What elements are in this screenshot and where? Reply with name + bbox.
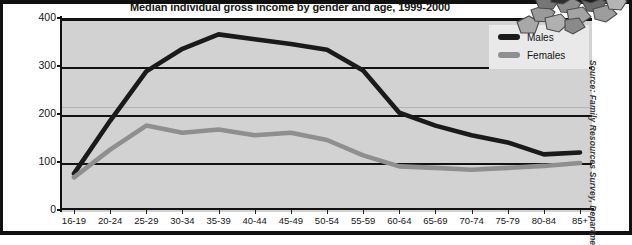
x-tick-label-40-44: 40-44: [243, 215, 267, 226]
x-tick-mark-25-29: [146, 210, 147, 214]
x-tick-mark-65-69: [435, 210, 436, 214]
x-tick-mark-80-84: [544, 210, 545, 214]
legend-swatch-females: [498, 52, 520, 58]
chart-figure: Median individual gross income by gender…: [0, 0, 632, 245]
legend-swatch-males: [498, 34, 520, 40]
x-tick-mark-40-44: [255, 210, 256, 214]
x-tick-label-55-59: 55-59: [351, 215, 375, 226]
chart-legend: Males Females: [489, 25, 589, 69]
x-tick-label-70-74: 70-74: [459, 215, 483, 226]
x-tick-label-65-69: 65-69: [423, 215, 447, 226]
legend-item-males: Males: [489, 28, 589, 46]
x-tick-mark-30-34: [182, 210, 183, 214]
x-tick-mark-16-19: [74, 210, 75, 214]
x-tick-mark-55-59: [363, 210, 364, 214]
x-tick-mark-75-79: [508, 210, 509, 214]
x-tick-mark-20-24: [110, 210, 111, 214]
source-note: Source: Family Resources Survey, Departm…: [588, 60, 598, 230]
x-tick-mark-70-74: [472, 210, 473, 214]
x-tick-label-80-84: 80-84: [532, 215, 556, 226]
x-tick-label-16-19: 16-19: [62, 215, 86, 226]
x-tick-label-75-79: 75-79: [496, 215, 520, 226]
x-tick-mark-60-64: [399, 210, 400, 214]
x-tick-label-60-64: 60-64: [387, 215, 411, 226]
x-tick-mark-50-54: [327, 210, 328, 214]
legend-label-females: Females: [527, 50, 565, 61]
x-tick-label-25-29: 25-29: [134, 215, 158, 226]
x-tick-label-30-34: 30-34: [170, 215, 194, 226]
x-tick-label-45-49: 45-49: [279, 215, 303, 226]
x-tick-label-85+: 85+: [572, 215, 588, 226]
legend-label-males: Males: [527, 32, 554, 43]
x-tick-mark-35-39: [219, 210, 220, 214]
x-tick-mark-85+: [580, 210, 581, 214]
x-tick-label-20-24: 20-24: [98, 215, 122, 226]
x-tick-label-35-39: 35-39: [206, 215, 230, 226]
x-tick-mark-45-49: [291, 210, 292, 214]
legend-item-females: Females: [489, 46, 589, 64]
x-tick-label-50-54: 50-54: [315, 215, 339, 226]
